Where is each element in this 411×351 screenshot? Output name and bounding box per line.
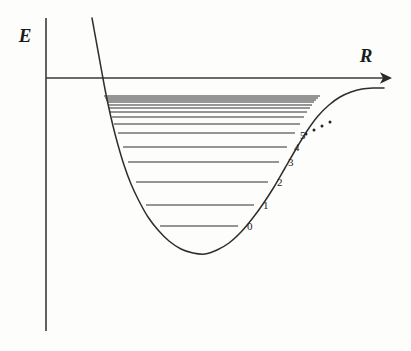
continuation-dot [329, 121, 332, 124]
continuation-dot [313, 129, 316, 132]
morse-potential-figure: 012345 E R [0, 0, 411, 351]
morse-potential-curve [92, 18, 384, 254]
continuation-dot [321, 125, 324, 128]
potential-energy-diagram: 012345 E R [0, 0, 411, 351]
vibrational-level-label: 4 [294, 141, 300, 153]
vibrational-level-label: 0 [247, 220, 253, 232]
distance-axis-label: R [359, 45, 373, 66]
continuation-dot [305, 133, 308, 136]
vibrational-level-labels: 012345 [247, 129, 306, 232]
energy-axis-label: E [18, 25, 32, 46]
vibrational-level-label: 2 [277, 176, 283, 188]
vibrational-level-label: 3 [288, 156, 294, 168]
vibrational-level-label: 1 [263, 199, 269, 211]
